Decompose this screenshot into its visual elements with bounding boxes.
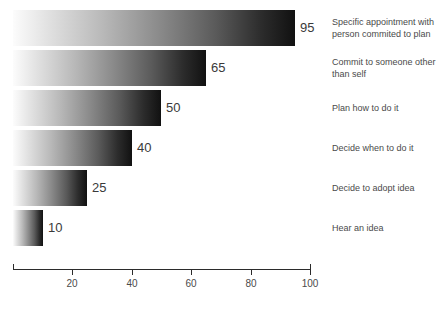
bar-value-label: 65 [211, 50, 225, 86]
category-label: Specific appointment with person commite… [332, 16, 444, 40]
x-axis-start-cap [13, 264, 14, 270]
x-axis-tick-label: 60 [185, 278, 196, 289]
bar-value-label: 10 [48, 210, 62, 246]
category-label: Commit to someone other than self [332, 56, 444, 80]
bar [13, 50, 206, 86]
bar [13, 10, 295, 46]
category-label: Decide when to do it [332, 142, 444, 154]
x-axis-tick-label: 40 [126, 278, 137, 289]
bar [13, 90, 161, 126]
x-axis-tick [72, 270, 73, 275]
x-axis-tick-label: 80 [245, 278, 256, 289]
bar-value-label: 50 [166, 90, 180, 126]
x-axis-tick [191, 270, 192, 275]
x-axis-tick-label: 100 [302, 278, 319, 289]
bar [13, 170, 87, 206]
category-label: Plan how to do it [332, 102, 444, 114]
bar-value-label: 25 [92, 170, 106, 206]
x-axis-tick [251, 270, 252, 275]
bar-value-label: 40 [137, 130, 151, 166]
bar [13, 130, 132, 166]
x-axis-tick [132, 270, 133, 275]
chart-page: 95 Specific appointment with person comm… [0, 0, 444, 310]
bar [13, 210, 43, 246]
x-axis-tick-label: 20 [66, 278, 77, 289]
bar-chart: 95 Specific appointment with person comm… [0, 0, 444, 310]
bar-value-label: 95 [300, 10, 314, 46]
category-label: Decide to adopt idea [332, 182, 444, 194]
x-axis-line [13, 269, 310, 270]
x-axis-tick [310, 270, 311, 275]
category-label: Hear an idea [332, 222, 444, 234]
